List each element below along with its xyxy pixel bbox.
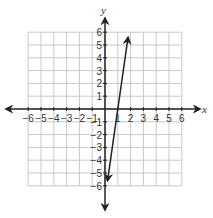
x-tick-label: −6: [22, 113, 34, 124]
y-tick-label: −2: [91, 130, 103, 141]
y-tick-label: 1: [96, 91, 102, 102]
y-tick-label: −3: [91, 142, 103, 153]
x-tick-label: 2: [128, 113, 134, 124]
y-tick-label: 4: [96, 53, 102, 64]
y-tick-label: −1: [91, 117, 103, 128]
y-tick-label: 2: [96, 78, 102, 89]
x-tick-label: −2: [74, 113, 86, 124]
x-tick-label: 5: [166, 113, 172, 124]
x-axis-label: x: [201, 103, 207, 115]
x-tick-label: 6: [179, 113, 185, 124]
y-tick-label: −6: [91, 181, 103, 192]
x-tick-label: 4: [153, 113, 159, 124]
y-tick-label: 6: [96, 27, 102, 38]
x-tick-label: −4: [48, 113, 60, 124]
y-axis-label: y: [100, 4, 106, 16]
coordinate-plane: −6−5−4−3−2−1123456654321−1−2−3−4−5−6 x y: [0, 0, 213, 218]
y-tick-label: −5: [91, 168, 103, 179]
y-tick-label: −4: [91, 155, 103, 166]
y-tick-label: 5: [96, 40, 102, 51]
x-tick-label: −3: [61, 113, 73, 124]
y-tick-label: 3: [96, 66, 102, 77]
x-tick-label: 3: [141, 113, 147, 124]
x-tick-label: −5: [35, 113, 47, 124]
